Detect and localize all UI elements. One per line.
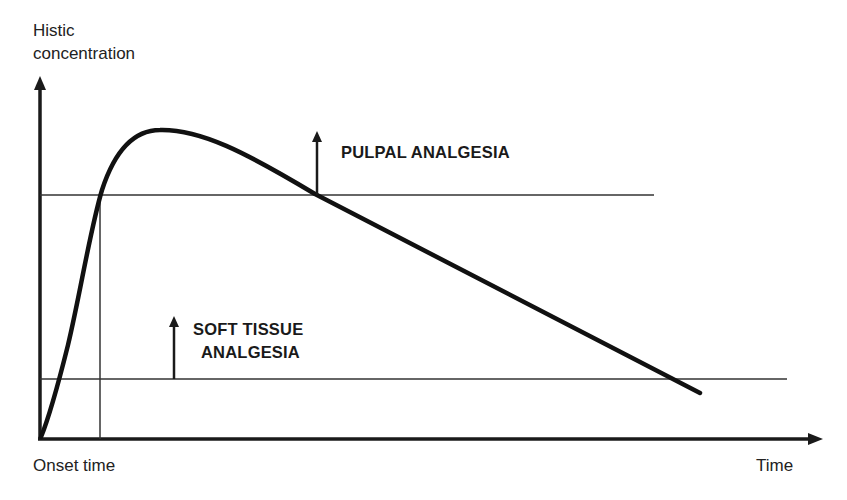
concentration-diagram: [0, 0, 847, 500]
x-axis-label: Time: [756, 455, 793, 477]
soft-tissue-up-arrow-icon: [169, 316, 179, 327]
pulpal-up-arrow-icon: [312, 131, 322, 142]
x-axis-arrow-icon: [808, 433, 823, 445]
y-axis-label-line1: Histic: [33, 20, 75, 42]
y-axis-label-line2: concentration: [33, 43, 135, 65]
onset-time-label: Onset time: [33, 455, 115, 477]
soft-tissue-label-line1: SOFT TISSUE: [193, 318, 303, 340]
pulpal-analgesia-label: PULPAL ANALGESIA: [341, 141, 510, 163]
y-axis-arrow-icon: [34, 76, 46, 90]
soft-tissue-label-line2: ANALGESIA: [201, 341, 300, 363]
concentration-curve: [41, 130, 700, 437]
